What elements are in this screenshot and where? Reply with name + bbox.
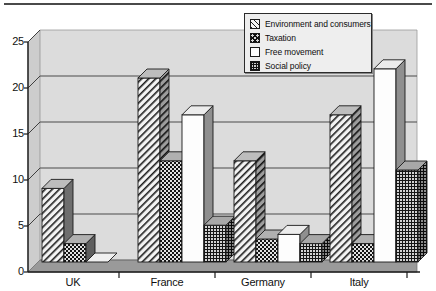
legend-swatch-free-movement-icon <box>250 47 260 57</box>
legend-label-environment-and-consumers: Environment and consumers <box>265 19 371 29</box>
y-tick-label-20: 20 <box>0 81 24 93</box>
legend-swatch-social-policy-icon <box>250 61 260 71</box>
y-tick-label-10: 10 <box>0 173 24 185</box>
legend-swatch-environment-icon <box>250 19 260 29</box>
bar-germany-social-policy <box>300 235 331 262</box>
legend-item-environment-and-consumers: Environment and consumers <box>250 17 368 30</box>
legend-label-social-policy: Social policy <box>265 61 311 71</box>
x-tick-label-italy: Italy <box>324 276 394 288</box>
bar-italy-social-policy <box>396 161 427 262</box>
legend-swatch-taxation-icon <box>250 33 260 43</box>
legend-label-taxation: Taxation <box>265 33 296 43</box>
x-tick-label-germany: Germany <box>228 276 298 288</box>
legend-label-free-movement: Free movement <box>265 47 323 57</box>
plot-left-wall <box>28 30 40 272</box>
x-tick-label-france: France <box>132 276 202 288</box>
legend-item-free-movement: Free movement <box>250 45 368 58</box>
chart-legend: Environment and consumers Taxation Free … <box>244 13 372 73</box>
bar-france-social-policy <box>204 216 235 262</box>
grouped-bar-chart: 25 20 15 10 5 0 UK France Germany Italy … <box>0 0 436 291</box>
y-tick-label-25: 25 <box>0 35 24 47</box>
bar-italy-environment <box>330 106 361 262</box>
y-tick-label-5: 5 <box>0 219 24 231</box>
x-tick-label-uk: UK <box>38 276 108 288</box>
y-tick-label-0: 0 <box>0 265 24 277</box>
legend-item-taxation: Taxation <box>250 31 368 44</box>
y-tick-label-15: 15 <box>0 127 24 139</box>
legend-item-social-policy: Social policy <box>250 59 368 72</box>
